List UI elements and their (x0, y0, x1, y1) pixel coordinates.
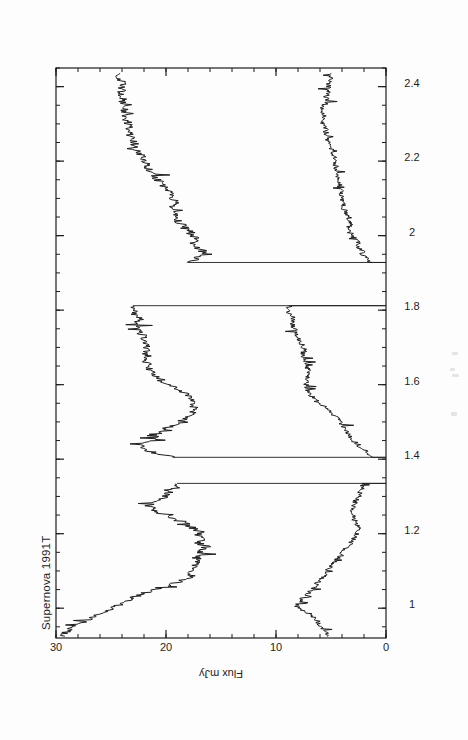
y-tick-label: 0 (383, 641, 389, 653)
y-tick-label: 20 (160, 641, 172, 653)
plot-canvas: 11.21.41.61.822.22.40102030Flux mJy (34, 50, 434, 690)
x-tick-label: 1 (409, 598, 415, 610)
plot-frame (56, 68, 386, 638)
x-tick-label: 1.2 (404, 524, 419, 536)
page-smudge-4 (451, 412, 457, 416)
x-tick-label: 2 (409, 226, 415, 238)
page-smudge-3 (452, 374, 459, 377)
x-tick-label: 1.4 (404, 449, 419, 461)
spectrum-trace-upper-spectrum (60, 74, 216, 637)
y-tick-label: 10 (270, 641, 282, 653)
x-tick-label: 1.8 (404, 300, 419, 312)
x-tick-label: 2.4 (404, 77, 419, 89)
spectrum-figure: Supernova 1991T 11.21.41.61.822.22.40102… (34, 50, 434, 690)
x-tick-label: 1.6 (404, 375, 419, 387)
figure-rotator: Supernova 1991T 11.21.41.61.822.22.40102… (34, 50, 434, 690)
x-tick-label: 2.2 (404, 151, 419, 163)
y-axis-label: Flux mJy (199, 668, 244, 680)
page-smudge-2 (450, 368, 455, 371)
spectrum-trace-lower-spectrum (285, 74, 373, 637)
y-tick-label: 30 (50, 641, 62, 653)
page-smudge-1 (452, 352, 458, 355)
